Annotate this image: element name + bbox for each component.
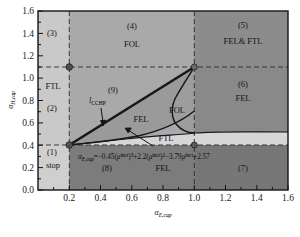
lcchp-label-sub: CCHP [91,100,106,106]
marker-02-10 [66,64,73,71]
eq-term4: +2.57 [193,153,210,161]
ytick-label-8: 1.6 [22,6,34,16]
y-axis-title: αH,cap [6,91,16,109]
ytick-label-0: 0.0 [22,185,34,195]
region-1-number: (1) [47,147,57,157]
region-5-number: (5) [238,20,248,30]
phase-diagram-chart: 0.2 0.4 0.6 0.8 1.0 1.2 1.4 1.6 0.0 0.2 … [0,0,300,237]
marker-10-04 [191,142,197,148]
figure-container: 0.2 0.4 0.6 0.8 1.0 1.2 1.4 1.6 0.0 0.2 … [0,0,300,237]
inner-label-fol: FOL [169,105,185,115]
region-4-label: FOL [124,39,140,49]
eq-term2: +2.2( [133,153,149,161]
xtick-label-7: 1.6 [282,193,294,203]
xtick-label-6: 1.4 [251,193,263,203]
ytick-label-5: 1.0 [22,73,34,83]
region-2-number: (2) [47,103,57,113]
eq-lhs-sub: E,cap [81,156,94,162]
x-axis-title: αE,cap [154,208,171,218]
xtick-label-5: 1.2 [220,193,232,203]
region-2-label: FTL [45,81,60,91]
x-tick-labels: 0.2 0.4 0.6 0.8 1.0 1.2 1.4 1.6 [63,193,294,203]
region-5-label: FEL& FTL [224,36,263,46]
ytick-label-1: 0.2 [22,163,34,173]
ytick-label-4: 0.8 [22,96,34,106]
region-8-label: FEL [155,163,170,173]
y-axis-title-sub: H,cap [10,91,16,106]
ytick-label-6: 1.2 [22,51,34,61]
region-4-number: (4) [127,21,137,31]
region-3-number: (3) [47,28,57,38]
region-9-number: (9) [108,85,118,95]
inner-label-fel: FEL [133,114,148,124]
eq-term1: −0.45( [98,153,118,161]
x-axis-title-sub: E,cap [158,212,172,218]
ytick-label-3: 0.6 [22,118,34,128]
ytick-label-2: 0.4 [22,141,34,151]
region-7-number: (7) [238,163,248,173]
xtick-label-2: 0.6 [126,193,138,203]
xtick-label-4: 1.0 [188,193,200,203]
region-6-number: (6) [238,79,248,89]
ytick-label-7: 1.4 [22,29,34,39]
marker-10-10 [191,64,197,70]
xtick-label-1: 0.4 [95,193,107,203]
region-6-label: FEL [235,93,250,103]
marker-02-04 [66,142,73,149]
y-tick-labels: 0.0 0.2 0.4 0.6 0.8 1.0 1.2 1.4 1.6 [22,6,34,195]
eq-term3: −3.79 [165,153,182,161]
inner-label-ftl: FTL [158,133,173,143]
region-1-label: stop [46,160,60,170]
region-8-number: (8) [102,163,112,173]
xtick-label-3: 0.8 [157,193,169,203]
xtick-label-0: 0.2 [63,193,75,203]
